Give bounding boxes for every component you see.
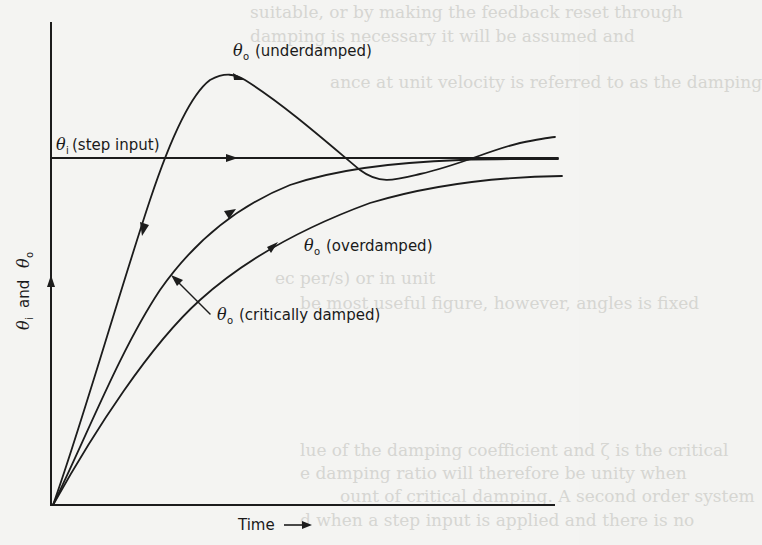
theta-symbol: θ	[14, 258, 33, 268]
critically-damped-label-text: (critically damped)	[239, 306, 380, 324]
y-axis-arrow-icon	[47, 275, 55, 287]
subscript: i	[66, 145, 69, 156]
underdamped-rising-arrow-icon	[140, 222, 149, 236]
critically-damped-label: θ o (critically damped)	[217, 305, 380, 326]
underdamped-label: θ o (underdamped)	[233, 41, 372, 62]
step-input-label: θ i (step input)	[56, 135, 160, 156]
subscript: o	[243, 51, 249, 62]
step-input-label-text: (step input)	[72, 136, 160, 154]
theta-symbol: θ	[56, 135, 66, 154]
theta-symbol: θ	[217, 305, 227, 324]
y-axis-label: θ i and θ o	[14, 252, 35, 330]
subscript: i	[24, 317, 35, 320]
theta-symbol: θ	[304, 236, 314, 255]
y-axis-label-conj: and	[15, 280, 33, 308]
overdamped-label: θ o (overdamped)	[304, 236, 433, 257]
theta-symbol: θ	[233, 41, 243, 60]
subscript: o	[227, 315, 233, 326]
critically-damped-pointer	[176, 280, 210, 314]
x-axis-label-text: Time	[237, 516, 275, 534]
underdamped-label-text: (underdamped)	[255, 42, 372, 60]
critically-damped-curve	[53, 159, 558, 505]
step-input-arrow-icon	[226, 154, 238, 162]
x-axis-label: Time	[237, 516, 312, 534]
subscript: o	[24, 252, 35, 258]
arrow-right-icon	[302, 521, 312, 529]
overdamped-arrow-icon	[267, 242, 278, 253]
theta-symbol: θ	[14, 320, 33, 330]
subscript: o	[314, 246, 320, 257]
overdamped-label-text: (overdamped)	[326, 237, 433, 255]
overdamped-curve	[53, 176, 562, 505]
